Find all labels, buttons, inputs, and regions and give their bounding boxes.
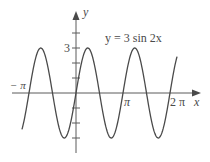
x-axis-label: x	[193, 95, 200, 109]
y-axis-label: y	[82, 5, 89, 19]
y-axis-arrow-icon	[73, 11, 80, 20]
sine-graph: y x 3 − π π 2 π y = 3 sin 2x	[0, 0, 210, 162]
x-tick-label-pi: π	[124, 95, 131, 109]
x-tick-label-neg-pi: − π	[10, 79, 26, 91]
y-tick-label-3: 3	[64, 41, 70, 55]
equation-label: y = 3 sin 2x	[105, 31, 162, 45]
x-tick-label-2pi: 2 π	[170, 95, 185, 109]
